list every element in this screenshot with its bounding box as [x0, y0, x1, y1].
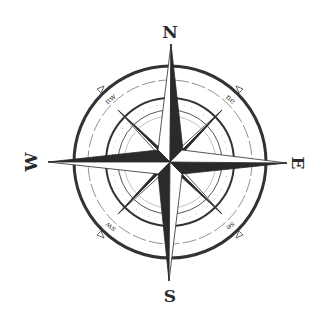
- label-southeast: se: [224, 220, 237, 233]
- compass-rose: N S E W nw ne sw se: [0, 0, 329, 326]
- label-south: S: [164, 286, 176, 306]
- label-northeast: ne: [224, 92, 238, 105]
- label-northwest: nw: [103, 92, 118, 107]
- label-north: N: [162, 22, 178, 42]
- cardinal-points: [48, 44, 287, 281]
- label-east: E: [288, 157, 308, 170]
- label-west: W: [21, 152, 41, 173]
